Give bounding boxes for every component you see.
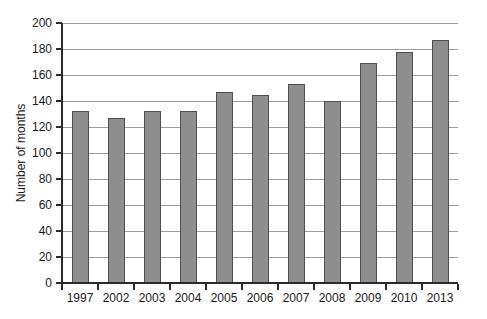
bar-2004 — [180, 111, 197, 283]
x-axis-tick — [169, 284, 171, 290]
y-tick-label: 80 — [4, 173, 52, 185]
y-tick-label: 0 — [4, 277, 52, 289]
bar-2007 — [288, 84, 305, 283]
y-axis-tick — [56, 256, 62, 258]
y-axis-tick — [56, 126, 62, 128]
y-axis-tick — [56, 48, 62, 50]
y-tick-label: 100 — [4, 147, 52, 159]
y-axis-tick — [56, 152, 62, 154]
x-axis-tick — [385, 284, 387, 290]
bar-2010 — [396, 52, 413, 283]
gridline — [62, 23, 458, 24]
y-axis-tick — [56, 204, 62, 206]
y-axis-tick — [56, 22, 62, 24]
y-tick-label: 200 — [4, 17, 52, 29]
bar-2009 — [360, 63, 377, 283]
plot-area: 0204060801001201401601802001997200220032… — [62, 23, 458, 283]
gridline — [62, 49, 458, 50]
x-axis-tick — [133, 284, 135, 290]
y-tick-label: 140 — [4, 95, 52, 107]
x-tick-label: 2007 — [276, 292, 316, 305]
x-axis-line — [61, 282, 458, 284]
x-tick-label: 2005 — [204, 292, 244, 305]
bar-chart-figure: Number of months 02040608010012014016018… — [0, 0, 487, 319]
x-axis-tick — [349, 284, 351, 290]
y-axis-tick — [56, 230, 62, 232]
x-axis-tick — [61, 284, 63, 290]
bar-2005 — [216, 92, 233, 283]
bar-1997 — [72, 111, 89, 283]
y-axis-tick — [56, 178, 62, 180]
y-tick-label: 120 — [4, 121, 52, 133]
x-axis-tick — [97, 284, 99, 290]
x-tick-label: 1997 — [60, 292, 100, 305]
y-axis-tick — [56, 74, 62, 76]
y-tick-label: 60 — [4, 199, 52, 211]
x-tick-label: 2003 — [132, 292, 172, 305]
y-axis-tick — [56, 100, 62, 102]
y-tick-label: 20 — [4, 251, 52, 263]
x-axis-tick — [277, 284, 279, 290]
x-axis-tick — [241, 284, 243, 290]
x-tick-label: 2006 — [240, 292, 280, 305]
y-tick-label: 180 — [4, 43, 52, 55]
x-axis-tick — [205, 284, 207, 290]
y-tick-label: 160 — [4, 69, 52, 81]
x-tick-label: 2002 — [96, 292, 136, 305]
x-axis-tick — [421, 284, 423, 290]
x-axis-tick — [313, 284, 315, 290]
bar-2008 — [324, 101, 341, 283]
x-tick-label: 2004 — [168, 292, 208, 305]
bar-2006 — [252, 95, 269, 284]
x-tick-label: 2008 — [312, 292, 352, 305]
bar-2003 — [144, 111, 161, 283]
bar-2013 — [432, 40, 449, 283]
x-tick-label: 2009 — [348, 292, 388, 305]
x-tick-label: 2013 — [420, 292, 460, 305]
x-axis-tick — [457, 284, 459, 290]
y-tick-label: 40 — [4, 225, 52, 237]
bar-2002 — [108, 118, 125, 283]
x-tick-label: 2010 — [384, 292, 424, 305]
